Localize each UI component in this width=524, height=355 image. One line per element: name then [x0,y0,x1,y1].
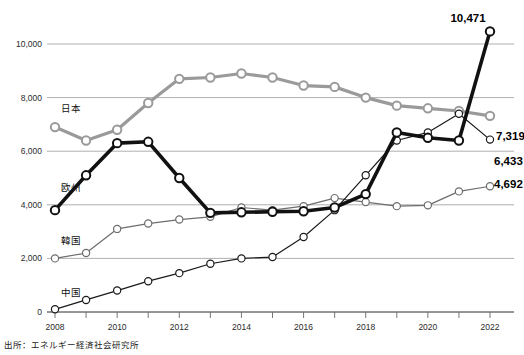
data-point [51,306,58,313]
data-point [486,136,493,143]
x-tick-label: 2014 [232,322,251,332]
data-point [486,112,494,120]
x-tick-label: 2008 [46,322,65,332]
gridlines [47,44,514,312]
data-point [330,83,338,91]
data-point [176,216,183,223]
data-point [82,136,90,144]
data-point [176,270,183,277]
data-point [393,101,401,109]
series-label-3: 中国 [61,287,81,298]
x-tick-label: 2018 [356,322,375,332]
data-point [486,183,493,190]
end-value-label: 4,692 [494,178,523,190]
data-point [299,81,307,89]
y-tick-label: 6,000 [21,146,43,156]
x-tick-label: 2010 [108,322,127,332]
source-note: 出所：エネルギー経済社会研究所 [4,340,139,350]
data-point [51,123,59,131]
x-tick-label: 2016 [294,322,313,332]
data-point [362,199,369,206]
y-tick-label: 8,000 [21,93,43,103]
end-value-label: 7,319 [496,130,524,142]
y-tick-label: 4,000 [21,200,43,210]
series-line [55,186,490,258]
data-point [362,172,369,179]
data-point [82,296,89,303]
x-tick-label: 2020 [418,322,437,332]
data-point [207,260,214,267]
data-point [51,255,58,262]
data-point [51,206,59,214]
data-point [145,278,152,285]
y-tick-label: 10,000 [16,39,42,49]
series-1 [51,27,494,217]
data-point [424,134,432,142]
data-point [424,104,432,112]
data-point [145,220,152,227]
data-point [175,75,183,83]
data-point [268,208,276,216]
data-point [300,233,307,240]
data-point [82,249,89,256]
series-label-2: 韓国 [61,235,81,246]
data-point [206,209,214,217]
data-point [331,195,338,202]
x-axis [47,312,514,318]
series-2 [51,183,493,262]
data-point [299,207,307,215]
data-point [144,99,152,107]
data-point [237,208,245,216]
data-point [237,69,245,77]
y-tick-label: 2,000 [21,253,43,263]
y-axis-tick-labels: 02,0004,0006,0008,00010,000 [16,39,42,317]
series-line [55,31,490,212]
x-axis-tick-labels: 20082010201220142016201820202022 [46,322,500,332]
data-point [455,110,462,117]
series-label-0: 日本 [61,103,81,114]
data-point [268,73,276,81]
data-point [393,128,401,136]
data-point [82,171,90,179]
data-point [393,203,400,210]
series-lines [51,27,494,313]
data-point [486,27,494,35]
data-point [206,73,214,81]
chart-container: 02,0004,0006,0008,00010,000 200820102012… [0,0,524,355]
data-point [269,253,276,260]
data-point [330,203,338,211]
y-tick-label: 0 [37,307,42,317]
data-point [175,174,183,182]
data-point [362,93,370,101]
data-point [144,138,152,146]
data-point [113,126,121,134]
data-point [238,255,245,262]
data-point [113,139,121,147]
data-point [114,225,121,232]
data-point [362,190,370,198]
data-point [114,287,121,294]
data-point [455,136,463,144]
end-value-label: 6,433 [494,155,523,167]
data-point [424,202,431,209]
line-chart: 02,0004,0006,0008,00010,000 200820102012… [0,0,524,355]
x-tick-label: 2012 [170,322,189,332]
data-point [455,188,462,195]
end-value-label: 10,471 [450,12,486,24]
series-label-1: 欧州 [61,182,81,193]
x-tick-label: 2022 [481,322,500,332]
